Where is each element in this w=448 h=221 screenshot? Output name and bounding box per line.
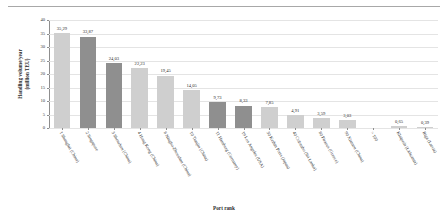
bar-value-label: 24,03: [109, 57, 119, 62]
bar-value-label: 7,85: [265, 101, 273, 106]
bar-slot[interactable]: 7,85: [256, 20, 282, 128]
bar[interactable]: [131, 68, 148, 128]
bar-value-label: 33,87: [83, 30, 93, 35]
bar[interactable]: [80, 37, 97, 128]
x-tick-label: 40 Colombo (Sri Lanka): [291, 131, 317, 171]
bar-value-label: 8,33: [239, 99, 247, 104]
x-tick-label: 30 Keihin Ports (Japan): [266, 131, 291, 170]
chart-figure: 0510152025303540 Handling volume/year (m…: [0, 0, 448, 221]
x-tick-label: 8 Ningbo-Zhoushan (China): [162, 131, 191, 177]
x-tick-label: 3 Shenzhen (China): [110, 131, 132, 164]
bar[interactable]: [313, 118, 330, 128]
bar-slot[interactable]: 19,45: [153, 20, 179, 128]
bar-slot[interactable]: 33,87: [75, 20, 101, 128]
x-tick-label: 2 Singapore: [84, 131, 99, 152]
header-rule: [8, 6, 440, 7]
x-tick-label: 10 Tianjin (China): [188, 131, 209, 162]
bar-value-label: 14,05: [186, 84, 196, 89]
bar-series: 35,2933,8724,0322,2319,4514,059,738,337,…: [49, 20, 438, 128]
bar[interactable]: [261, 107, 278, 128]
bar[interactable]: [209, 102, 226, 128]
bar[interactable]: [106, 63, 123, 128]
bar-slot[interactable]: 14,05: [179, 20, 205, 128]
bar-slot[interactable]: 3,03: [334, 20, 360, 128]
bar-slot[interactable]: 9,73: [205, 20, 231, 128]
bar-slot[interactable]: 8,33: [231, 20, 257, 128]
x-tick-label: > 100: [369, 131, 378, 142]
x-tick-label: Riga (Latvia): [421, 131, 437, 154]
y-axis-title-line1: Handling volume/year: [17, 49, 23, 98]
y-tick-mark: [47, 128, 49, 129]
bar[interactable]: [183, 90, 200, 128]
bar[interactable]: [54, 33, 71, 128]
bar-slot[interactable]: 4,91: [282, 20, 308, 128]
x-tick-label: Klaipeda (Lithuania): [395, 131, 418, 166]
bar[interactable]: [157, 76, 174, 129]
x-tick-label: 80 Piraeus (Greece): [317, 131, 339, 164]
bar-slot[interactable]: 22,23: [127, 20, 153, 128]
x-tick-label: 19 Los Angeles (USA): [240, 131, 264, 169]
x-tick-label: 11 Hamburg (Germany): [214, 131, 240, 171]
bar-value-label: 3,59: [317, 112, 325, 117]
bar[interactable]: [339, 120, 356, 128]
y-axis-title-line2: (million TEU): [23, 59, 29, 90]
bar-value-label: 0,65: [395, 120, 403, 125]
bar-value-label: 9,73: [214, 96, 222, 101]
x-tick-label: 4 Hong Kong (China): [136, 131, 160, 167]
bar-slot[interactable]: 0,39: [412, 20, 438, 128]
bar[interactable]: [287, 115, 304, 128]
x-tick-label: 90 Xiamen (China): [343, 131, 364, 163]
bar-slot[interactable]: 0,65: [386, 20, 412, 128]
bar[interactable]: [235, 106, 252, 128]
x-axis-title: Port rank: [0, 205, 448, 211]
bar-slot[interactable]: 3,59: [308, 20, 334, 128]
bar-slot[interactable]: 24,03: [101, 20, 127, 128]
plot-area: 0510152025303540 Handling volume/year (m…: [49, 20, 438, 128]
x-tick-label: 1 Shanghai (China): [58, 131, 79, 164]
bar-slot[interactable]: 35,29: [49, 20, 75, 128]
bar-value-label: 3,03: [343, 114, 351, 119]
bar-value-label: 19,45: [161, 69, 171, 74]
bar-value-label: 4,91: [291, 109, 299, 114]
bar-value-label: 22,23: [135, 62, 145, 67]
bar-slot[interactable]: [360, 20, 386, 128]
y-axis-title: Handling volume/year (million TEU): [17, 49, 30, 98]
bar-value-label: 0,39: [421, 121, 429, 126]
bar-value-label: 35,29: [57, 27, 67, 32]
